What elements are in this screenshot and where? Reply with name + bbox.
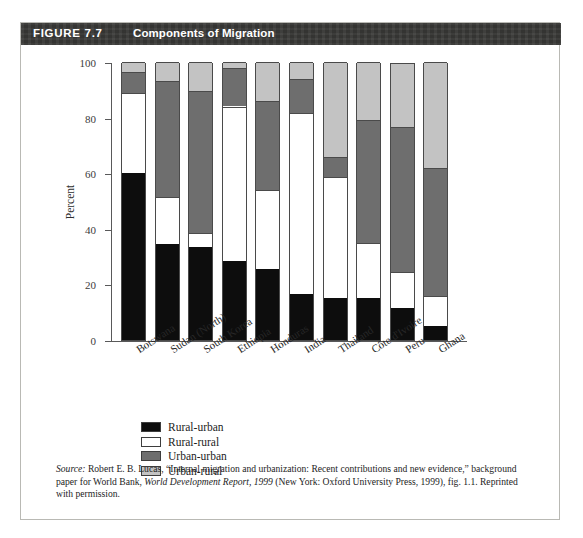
bar-segment-rural-urban bbox=[424, 326, 447, 340]
y-tick: 60 bbox=[105, 174, 111, 175]
y-tick-label: 100 bbox=[80, 57, 97, 69]
y-axis-line bbox=[111, 63, 112, 341]
legend-label: Rural-rural bbox=[168, 436, 219, 448]
y-tick-label: 60 bbox=[85, 168, 96, 180]
bar-segment-urban-rural bbox=[324, 62, 347, 157]
legend-item[interactable]: Rural-rural bbox=[141, 435, 227, 450]
stacked-bar bbox=[390, 63, 415, 341]
source-note: Source: Robert E. B. Lucas, “Internal mi… bbox=[56, 463, 532, 501]
y-tick: 0 bbox=[105, 341, 111, 342]
bar-segment-urban-urban bbox=[122, 72, 145, 93]
stacked-bar bbox=[255, 63, 280, 341]
bar-segment-rural-rural bbox=[391, 272, 414, 308]
source-label: Source: bbox=[56, 463, 85, 474]
bar-segment-rural-rural bbox=[156, 197, 179, 244]
bar-segment-urban-urban bbox=[223, 68, 246, 107]
chart-area: Percent 020406080100 BotswanaSudan (Nort… bbox=[21, 45, 561, 435]
legend-label: Rural-urban bbox=[168, 421, 224, 433]
bar-segment-urban-rural bbox=[357, 62, 380, 120]
stacked-bar bbox=[289, 63, 314, 341]
legend-swatch bbox=[141, 437, 161, 447]
y-tick-label: 80 bbox=[85, 113, 96, 125]
bar-segment-rural-rural bbox=[424, 296, 447, 327]
bar-segment-rural-urban bbox=[324, 298, 347, 340]
bar-segment-rural-rural bbox=[189, 233, 212, 247]
y-axis-title: Percent bbox=[64, 185, 76, 219]
stacked-bar bbox=[222, 63, 247, 341]
bar-segment-rural-rural bbox=[256, 190, 279, 269]
y-tick-label: 40 bbox=[85, 224, 96, 236]
legend-item[interactable]: Rural-urban bbox=[141, 420, 227, 435]
bar-segment-urban-urban bbox=[391, 127, 414, 272]
bar-segment-urban-urban bbox=[189, 91, 212, 233]
legend-swatch bbox=[141, 451, 161, 461]
bar-segment-urban-urban bbox=[290, 79, 313, 114]
stacked-bar bbox=[356, 63, 381, 341]
bar-segment-urban-rural bbox=[156, 62, 179, 81]
bar-segment-urban-urban bbox=[324, 157, 347, 178]
bar-segment-urban-urban bbox=[256, 101, 279, 190]
bar-segment-urban-rural bbox=[290, 62, 313, 79]
stacked-bar bbox=[423, 63, 448, 341]
bar-segment-rural-rural bbox=[290, 113, 313, 294]
bar-segment-rural-rural bbox=[324, 177, 347, 298]
bar-segment-rural-rural bbox=[122, 93, 145, 174]
legend-swatch bbox=[141, 422, 161, 432]
figure-title: Components of Migration bbox=[133, 27, 275, 39]
bar-segment-rural-urban bbox=[122, 173, 145, 340]
bar-segment-urban-urban bbox=[424, 168, 447, 296]
bar-segment-urban-rural bbox=[391, 63, 414, 127]
y-tick-label: 20 bbox=[85, 279, 96, 291]
bar-segment-urban-rural bbox=[256, 62, 279, 101]
source-publication: World Development Report, 1999 bbox=[144, 476, 273, 487]
bar-segment-urban-rural bbox=[189, 62, 212, 91]
stacked-bar bbox=[155, 63, 180, 341]
bar-segment-urban-urban bbox=[156, 81, 179, 196]
bar-segment-urban-rural bbox=[223, 62, 246, 68]
bar-segment-urban-urban bbox=[357, 120, 380, 242]
stacked-bar bbox=[323, 63, 348, 341]
stacked-bar bbox=[188, 63, 213, 341]
y-tick: 80 bbox=[105, 119, 111, 120]
figure-number: FIGURE 7.7 bbox=[33, 27, 103, 39]
bar-segment-rural-rural bbox=[223, 107, 246, 261]
bar-segment-rural-rural bbox=[357, 243, 380, 299]
figure-title-bar: FIGURE 7.7 Components of Migration bbox=[21, 23, 561, 45]
y-tick-label: 0 bbox=[91, 335, 97, 347]
y-tick: 40 bbox=[105, 230, 111, 231]
y-tick: 20 bbox=[105, 285, 111, 286]
plot-area: Percent 020406080100 BotswanaSudan (Nort… bbox=[111, 63, 466, 341]
bar-segment-urban-rural bbox=[122, 62, 145, 72]
y-tick: 100 bbox=[105, 63, 111, 64]
stacked-bar bbox=[121, 63, 146, 341]
bar-segment-urban-rural bbox=[424, 62, 447, 168]
legend-label: Urban-urban bbox=[168, 450, 227, 462]
legend-item[interactable]: Urban-urban bbox=[141, 449, 227, 464]
figure-card: FIGURE 7.7 Components of Migration Perce… bbox=[20, 22, 560, 520]
